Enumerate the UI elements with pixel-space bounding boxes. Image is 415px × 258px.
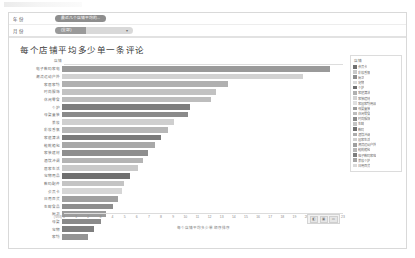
chart-container: 每个店铺平均多少单一条评论 店铺 电子数码家电潮流运动户外家居家纺时尚服饰休闲零… xyxy=(9,38,406,250)
bar[interactable] xyxy=(62,81,228,87)
x-axis-title: 每个店铺平均多少单 顺序排序 xyxy=(64,225,343,230)
bar[interactable] xyxy=(62,89,216,95)
bar[interactable] xyxy=(62,204,113,210)
bar-row[interactable]: 电子数码家电 xyxy=(20,65,343,73)
bar-track xyxy=(62,65,343,73)
chart-toolbar-button[interactable]: ▭ xyxy=(329,216,337,223)
bar-row[interactable]: 宠物用品 xyxy=(20,172,343,180)
x-axis-tick: 13 xyxy=(220,215,224,219)
bar-row[interactable]: 家装建材 xyxy=(20,149,343,157)
legend-item[interactable]: 家装建材 xyxy=(353,96,399,101)
legend-item[interactable]: 鞋靴箱包 xyxy=(353,148,399,153)
bar[interactable] xyxy=(62,104,190,110)
legend-item[interactable]: 家居家纺用品 xyxy=(353,101,399,106)
bar-track xyxy=(62,180,343,188)
legend-item[interactable]: 生鲜 xyxy=(353,122,399,127)
bar-row[interactable]: 休闲零食 xyxy=(20,96,343,104)
bar[interactable] xyxy=(62,165,138,171)
legend-title: 店铺 xyxy=(354,58,399,63)
dashboard-card: 年 份 最近几个店铺平均的... 月 份 (全部) ▾ 每个店铺平均多少单一条评… xyxy=(8,12,407,249)
legend-item[interactable]: 酒饮冲调 xyxy=(353,132,399,137)
bar-row[interactable]: 潮流运动户外 xyxy=(20,73,343,81)
bar[interactable] xyxy=(62,196,118,202)
chevron-down-icon[interactable]: ▾ xyxy=(126,27,128,34)
legend-item[interactable]: 彩妆香氛 xyxy=(353,70,399,75)
bar-row[interactable]: 日用百货 xyxy=(20,195,343,203)
bar-row[interactable]: 美妆 xyxy=(20,118,343,126)
x-axis-tick: 7 xyxy=(148,215,150,219)
bar[interactable] xyxy=(62,142,155,148)
bar-row[interactable]: 会员卡 xyxy=(20,187,343,195)
filter-row-month[interactable]: 月 份 (全部) ▾ xyxy=(9,25,406,37)
bar-row[interactable]: 个护 xyxy=(20,103,343,111)
legend-swatch xyxy=(353,133,357,137)
legend-item[interactable]: 日用百货 xyxy=(353,163,399,168)
legend-swatch xyxy=(353,127,357,131)
legend-item[interactable]: 时尚服饰 xyxy=(353,116,399,121)
bar[interactable] xyxy=(62,135,161,141)
bar-row[interactable]: 鞋靴箱包 xyxy=(20,141,343,149)
legend-item[interactable]: 数码 xyxy=(353,127,399,132)
bar-row-label: 鞋靴箱包 xyxy=(20,143,62,148)
filter-label-year: 年 份 xyxy=(13,16,55,22)
chart-toolbar-button[interactable]: ◧ xyxy=(310,216,318,223)
bar-row[interactable]: 数码配件 xyxy=(20,180,343,188)
bar[interactable] xyxy=(62,97,211,103)
bar[interactable] xyxy=(62,150,148,156)
legend-item[interactable]: 潮流运动户外 xyxy=(353,142,399,147)
bar-track xyxy=(62,164,343,172)
bar[interactable] xyxy=(62,127,168,133)
bar[interactable] xyxy=(62,74,303,80)
x-axis-tick: 10 xyxy=(183,215,187,219)
bar[interactable] xyxy=(62,119,174,125)
x-axis-tick: 6 xyxy=(136,215,138,219)
bar[interactable] xyxy=(62,188,122,194)
filter-value-year[interactable]: 最近几个店铺平均的... xyxy=(55,15,106,22)
bar-row[interactable]: 酒饮冲调 xyxy=(20,157,343,165)
bar-row-label: 休闲零食 xyxy=(20,97,62,102)
legend-swatch xyxy=(353,164,357,168)
bar[interactable] xyxy=(62,66,330,72)
filter-select-month[interactable]: (全部) ▾ xyxy=(55,27,133,34)
bar[interactable] xyxy=(62,158,143,164)
x-axis-tick: 9 xyxy=(172,215,174,219)
chart-mini-toolbar[interactable]: ◧▣▭ xyxy=(307,214,340,224)
x-axis-tick: 19 xyxy=(293,215,297,219)
bar[interactable] xyxy=(62,181,124,187)
bar-row[interactable]: 居家生活 xyxy=(20,164,343,172)
bar-row[interactable]: 母婴童装 xyxy=(20,111,343,119)
bar[interactable] xyxy=(62,112,188,118)
bar[interactable] xyxy=(62,234,88,240)
legend-item[interactable]: 个护 xyxy=(353,85,399,90)
bar-track xyxy=(62,103,343,111)
bar-track xyxy=(62,118,343,126)
legend-swatch xyxy=(353,138,357,142)
legend-item[interactable]: 宠物 xyxy=(353,80,399,85)
bar-row-label: 潮流运动户外 xyxy=(20,74,62,79)
filter-row-year[interactable]: 年 份 最近几个店铺平均的... xyxy=(9,13,406,25)
bar-row[interactable]: 家纺 xyxy=(20,233,343,241)
bar-row-label: 彩妆香氛 xyxy=(20,127,62,132)
bar[interactable] xyxy=(62,173,130,179)
bar-row[interactable]: 生鲜食品 xyxy=(20,203,343,211)
legend-item[interactable]: 会员卡 xyxy=(353,65,399,70)
x-axis-tick: 4 xyxy=(112,215,114,219)
legend-swatch xyxy=(353,75,357,79)
legend-item[interactable]: 厨卫 xyxy=(353,75,399,80)
legend-item[interactable]: 美妆个护 xyxy=(353,158,399,163)
legend-swatch xyxy=(353,91,357,95)
legend-item[interactable]: 电子数码家电 xyxy=(353,153,399,158)
bar-row[interactable]: 时尚服饰 xyxy=(20,88,343,96)
bar-row[interactable]: 家居家纺 xyxy=(20,80,343,88)
legend-item[interactable]: 休闲零食 xyxy=(353,111,399,116)
chart-toolbar-button[interactable]: ▣ xyxy=(320,216,328,223)
legend-item[interactable]: 家庭清洁 xyxy=(353,90,399,95)
x-axis-tick: 16 xyxy=(256,215,260,219)
legend-panel: 店铺 会员卡彩妆香氛厨卫宠物个护家庭清洁家装建材家居家纺用品母婴童装休闲零食时尚… xyxy=(350,55,402,172)
bar-row[interactable]: 彩妆香氛 xyxy=(20,126,343,134)
legend-item[interactable]: 母婴童装 xyxy=(353,106,399,111)
legend-item[interactable]: 居家生活 xyxy=(353,137,399,142)
bar-row[interactable]: 家庭清洁 xyxy=(20,134,343,142)
legend-swatch xyxy=(353,112,357,116)
bar-track xyxy=(62,134,343,142)
